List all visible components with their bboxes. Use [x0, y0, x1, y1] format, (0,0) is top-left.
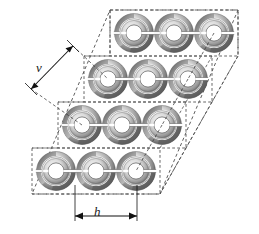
srr-row-2 [88, 59, 208, 98]
lattice-diagram-svg [0, 0, 259, 234]
dimension-h [75, 185, 137, 221]
srr-unit [114, 13, 154, 52]
srr-unit [102, 105, 142, 144]
dimension-label-v: v [36, 60, 42, 76]
srr-unit [128, 59, 168, 98]
figure-canvas: v h [0, 0, 259, 234]
srr-row-3 [62, 105, 182, 144]
srr-unit [154, 13, 194, 52]
srr-unit [62, 105, 102, 144]
dimension-label-h: h [94, 204, 101, 220]
dimension-v [25, 40, 79, 95]
srr-unit [76, 151, 116, 190]
srr-row-4 [36, 151, 156, 190]
srr-row-1 [114, 13, 234, 52]
srr-unit [36, 151, 76, 190]
srr-unit [116, 151, 156, 190]
